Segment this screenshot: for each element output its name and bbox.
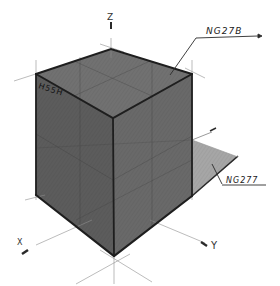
shadow-plane [192,140,238,196]
axis-label-x: X [17,238,23,247]
axis-label-z: Z [107,12,113,22]
x-arrow-icon [22,250,28,254]
z-arrow-icon [110,22,112,29]
cube-diagram: Z X Y NG27B H55H NG277 [0,0,280,286]
axis-label-y: Y [210,240,218,251]
label-top-face: NG27B [206,26,242,36]
label-shadow-plane: NG277 [226,176,258,185]
